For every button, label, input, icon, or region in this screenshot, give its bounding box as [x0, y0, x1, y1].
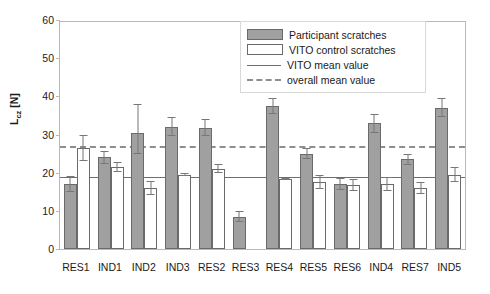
error-bar-cap-top: [147, 181, 155, 182]
error-bar-cap-bottom: [370, 132, 378, 133]
error-bar-cap-top: [303, 148, 311, 149]
error-bar-cap-bottom: [66, 191, 74, 192]
x-tick-label: RES4: [263, 252, 297, 292]
error-bar: [441, 98, 442, 117]
y-tick-label: 20: [42, 167, 54, 179]
legend-item-label: VITO control scratches: [289, 44, 396, 56]
bar-vito-control[interactable]: [414, 188, 427, 249]
bar-vito-control[interactable]: [448, 175, 461, 249]
y-tick-mark: [56, 20, 60, 21]
x-tick-label: IND5: [432, 252, 466, 292]
error-bar: [83, 135, 84, 162]
bar-participant[interactable]: [266, 106, 279, 249]
legend-line-dashed-icon: [247, 79, 281, 81]
error-bar: [218, 164, 219, 173]
x-tick-label: IND1: [93, 252, 127, 292]
error-bar-cap-bottom: [100, 163, 108, 164]
bar-slot: [77, 22, 90, 249]
bar-vito-control[interactable]: [212, 169, 225, 249]
bar-slot: [178, 22, 191, 249]
bar-participant[interactable]: [165, 127, 178, 249]
error-bar: [272, 98, 273, 113]
bar-slot: [199, 22, 212, 249]
error-bar: [306, 148, 307, 159]
error-bar: [374, 114, 375, 133]
y-tick-label: 30: [42, 129, 54, 141]
error-bar: [104, 151, 105, 165]
bar-slot: [448, 22, 461, 249]
bar-vito-control[interactable]: [178, 175, 191, 249]
bar-participant[interactable]: [98, 157, 111, 249]
bar-participant[interactable]: [334, 184, 347, 249]
legend-item[interactable]: VITO mean value: [247, 57, 418, 72]
error-bar: [454, 167, 455, 182]
error-bar-cap-top: [100, 151, 108, 152]
bar-participant[interactable]: [199, 128, 212, 249]
legend-swatch-open-icon: [247, 44, 283, 55]
error-bar: [285, 178, 286, 180]
bar-participant[interactable]: [300, 154, 313, 249]
legend-item[interactable]: VITO control scratches: [247, 42, 418, 57]
legend-item[interactable]: overall mean value: [247, 72, 418, 87]
error-bar-cap-top: [417, 182, 425, 183]
error-bar-cap-top: [383, 177, 391, 178]
y-tick-label: 40: [42, 90, 54, 102]
bar-participant[interactable]: [435, 108, 448, 249]
legend-swatch-filled-icon: [247, 29, 283, 40]
error-bar-cap-bottom: [113, 171, 121, 172]
error-bar-cap-top: [370, 114, 378, 115]
error-bar: [150, 181, 151, 195]
bar-slot: [144, 22, 157, 249]
error-bar-cap-top: [201, 119, 209, 120]
error-bar: [407, 154, 408, 165]
bar-vito-control[interactable]: [313, 182, 326, 249]
error-bar: [70, 176, 71, 191]
y-tick-label: 50: [42, 52, 54, 64]
bar-vito-control[interactable]: [111, 167, 124, 249]
bar-vito-control[interactable]: [279, 179, 292, 249]
legend-line-solid-icon: [247, 65, 281, 66]
error-bar-cap-top: [168, 117, 176, 118]
error-bar-cap-top: [451, 167, 459, 168]
error-bar-cap-bottom: [168, 135, 176, 136]
legend-item-label: Participant scratches: [289, 29, 386, 41]
bar-group: [128, 22, 162, 249]
error-bar-cap-top: [79, 135, 87, 136]
bar-participant[interactable]: [401, 159, 414, 249]
bar-slot: [131, 22, 144, 249]
error-bar-cap-bottom: [201, 135, 209, 136]
bar-participant[interactable]: [368, 123, 381, 249]
bar-participant[interactable]: [64, 184, 77, 249]
error-bar: [137, 104, 138, 154]
bar-vito-control[interactable]: [381, 184, 394, 249]
error-bar-cap-bottom: [303, 158, 311, 159]
y-axis-label-subscript: cz: [14, 111, 23, 119]
x-tick-label: RES3: [229, 252, 263, 292]
error-bar: [205, 119, 206, 136]
error-bar-cap-bottom: [147, 194, 155, 195]
bar-slot: [435, 22, 448, 249]
error-bar-cap-top: [438, 98, 446, 99]
bar-group: [60, 22, 94, 249]
error-bar-cap-bottom: [134, 153, 142, 154]
error-bar-cap-top: [134, 104, 142, 105]
error-bar-cap-top: [113, 162, 121, 163]
error-bar: [239, 211, 240, 222]
error-bar-cap-bottom: [417, 193, 425, 194]
bar-vito-control[interactable]: [144, 188, 157, 249]
error-bar-cap-top: [181, 173, 189, 174]
y-tick-label: 0: [48, 243, 54, 255]
x-tick-label: RES5: [296, 252, 330, 292]
error-bar-cap-bottom: [451, 181, 459, 182]
bar-vito-control[interactable]: [347, 185, 360, 249]
bar-group: [431, 22, 465, 249]
y-tick-mark: [56, 249, 60, 250]
bar-group: [161, 22, 195, 249]
bar-vito-control[interactable]: [77, 148, 90, 249]
error-bar-cap-bottom: [79, 160, 87, 161]
error-bar-cap-bottom: [438, 116, 446, 117]
chart-figure: Lcz [N] 6050403020100 RES1IND1IND2IND3RE…: [0, 0, 490, 294]
bar-slot: [165, 22, 178, 249]
error-bar-cap-bottom: [404, 164, 412, 165]
legend-item[interactable]: Participant scratches: [247, 27, 418, 42]
